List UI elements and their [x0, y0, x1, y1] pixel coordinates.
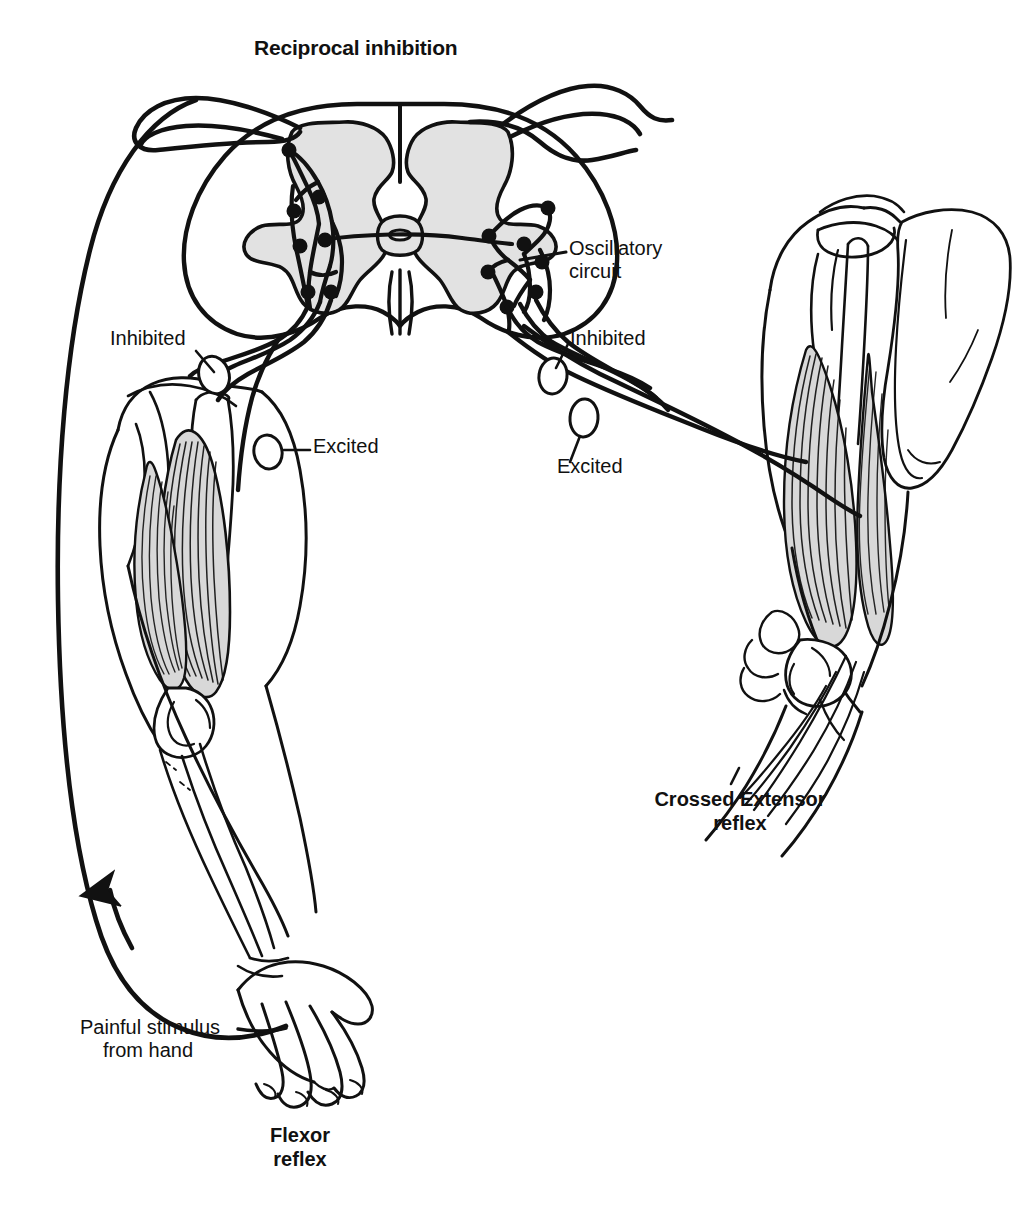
- flexor-reflex-caption-line2: reflex: [236, 1148, 364, 1171]
- oscillatory-circuit-label-line2: circuit: [569, 260, 621, 283]
- left-nerve-markers: [194, 351, 310, 472]
- direction-arrow: [110, 890, 132, 948]
- flexor-reflex-caption-line1: Flexor: [236, 1124, 364, 1147]
- crossed-extensor-caption-line1: Crossed Extensor: [612, 788, 868, 811]
- crossed-extensor-caption-tick: [731, 768, 739, 784]
- right-excited-label: Excited: [557, 455, 623, 478]
- painful-stimulus-leader: [238, 1028, 286, 1031]
- crossed-extensor-caption-line2: reflex: [612, 812, 868, 835]
- page-title: Reciprocal inhibition: [254, 36, 457, 60]
- left-excited-label: Excited: [313, 435, 379, 458]
- painful-stimulus-label-line2: from hand: [103, 1039, 193, 1062]
- right-arm-crossed-extensor: [706, 196, 1010, 856]
- left-excited-marker: [251, 432, 285, 471]
- oscillatory-circuit-label-line1: Oscillatory: [569, 237, 662, 260]
- painful-stimulus-label-line1: Painful stimulus: [80, 1016, 220, 1039]
- left-inhibited-label: Inhibited: [110, 327, 186, 350]
- right-excited-marker: [569, 398, 600, 438]
- right-inhibited-label: Inhibited: [570, 327, 646, 350]
- right-inhibited-marker: [537, 356, 570, 396]
